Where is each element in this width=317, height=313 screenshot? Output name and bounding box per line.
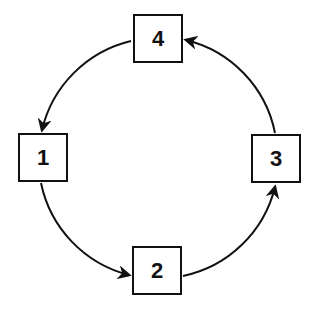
node-3-label: 3 bbox=[270, 146, 282, 172]
node-4: 4 bbox=[133, 14, 183, 63]
arrow-4-to-1 bbox=[42, 41, 131, 130]
arrow-3-to-4 bbox=[186, 40, 275, 133]
node-1: 1 bbox=[18, 133, 68, 182]
arrow-1-to-2 bbox=[41, 183, 129, 275]
node-4-label: 4 bbox=[152, 26, 164, 52]
cycle-diagram: 4 1 3 2 bbox=[0, 0, 317, 313]
arrow-2-to-3 bbox=[183, 187, 275, 276]
node-2-label: 2 bbox=[151, 258, 163, 284]
node-1-label: 1 bbox=[37, 145, 49, 171]
node-2: 2 bbox=[132, 246, 182, 295]
node-3: 3 bbox=[251, 134, 301, 183]
